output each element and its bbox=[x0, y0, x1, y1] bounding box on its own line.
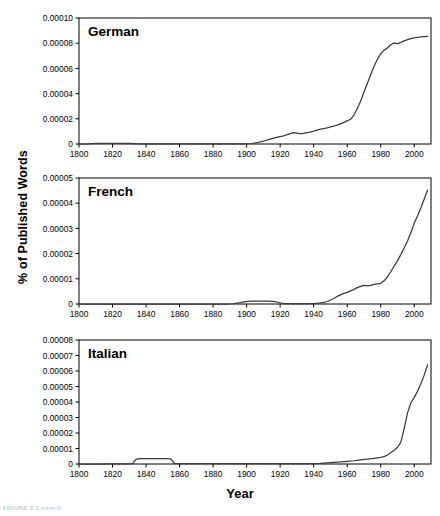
y-tick-label: 0.00005 bbox=[43, 173, 74, 183]
series-line-italian bbox=[79, 365, 428, 464]
x-tick-label: 1880 bbox=[204, 149, 223, 159]
x-tick-label: 1880 bbox=[204, 309, 223, 319]
x-tick-label: 1800 bbox=[70, 469, 89, 479]
panel-title-italian: Italian bbox=[88, 346, 127, 361]
x-tick-label: 1960 bbox=[338, 149, 357, 159]
x-tick-label: 1820 bbox=[103, 469, 122, 479]
x-tick-label: 1980 bbox=[371, 149, 390, 159]
y-tick-label: 0.00001 bbox=[43, 274, 74, 284]
panel-title-french: French bbox=[88, 184, 133, 199]
x-tick-label: 1800 bbox=[70, 309, 89, 319]
y-tick-label: 0.00003 bbox=[43, 413, 74, 423]
x-tick-label: 1880 bbox=[204, 469, 223, 479]
y-tick-label: 0.00001 bbox=[43, 444, 74, 454]
x-tick-label: 2000 bbox=[405, 469, 424, 479]
x-tick-label: 1900 bbox=[237, 309, 256, 319]
series-line-french bbox=[79, 190, 428, 304]
y-tick-label: 0 bbox=[68, 299, 73, 309]
x-tick-label: 1860 bbox=[170, 149, 189, 159]
x-tick-label: 1960 bbox=[338, 309, 357, 319]
x-tick-label: 1940 bbox=[304, 309, 323, 319]
x-tick-label: 2000 bbox=[405, 149, 424, 159]
chart-panel-italian: 00.000010.000020.000030.000040.000050.00… bbox=[0, 332, 440, 484]
y-tick-label: 0.00004 bbox=[43, 198, 74, 208]
chart-german: 00.000020.000040.000060.000080.000101800… bbox=[0, 4, 440, 164]
x-tick-label: 1800 bbox=[70, 149, 89, 159]
y-tick-label: 0 bbox=[68, 139, 73, 149]
y-tick-label: 0 bbox=[68, 459, 73, 469]
y-tick-label: 0.00002 bbox=[43, 428, 74, 438]
y-tick-label: 0.00007 bbox=[43, 351, 74, 361]
x-tick-label: 1840 bbox=[137, 309, 156, 319]
x-tick-label: 1920 bbox=[271, 309, 290, 319]
y-tick-label: 0.00005 bbox=[43, 382, 74, 392]
x-tick-label: 2000 bbox=[405, 309, 424, 319]
y-tick-label: 0.00002 bbox=[43, 114, 74, 124]
y-tick-label: 0.00003 bbox=[43, 224, 74, 234]
x-tick-label: 1840 bbox=[137, 149, 156, 159]
x-tick-label: 1960 bbox=[338, 469, 357, 479]
x-tick-label: 1840 bbox=[137, 469, 156, 479]
panel-title-german: German bbox=[88, 24, 139, 39]
chart-french: 00.000010.000020.000030.000040.000051800… bbox=[0, 168, 440, 328]
x-tick-label: 1820 bbox=[103, 149, 122, 159]
x-tick-label: 1860 bbox=[170, 469, 189, 479]
y-tick-label: 0.00004 bbox=[43, 89, 74, 99]
chart-panel-german: 00.000020.000040.000060.000080.000101800… bbox=[0, 4, 440, 164]
y-tick-label: 0.00006 bbox=[43, 366, 74, 376]
y-tick-label: 0.00008 bbox=[43, 335, 74, 345]
chart-italian: 00.000010.000020.000030.000040.000050.00… bbox=[0, 332, 440, 484]
plot-frame bbox=[79, 340, 431, 464]
x-tick-label: 1940 bbox=[304, 149, 323, 159]
x-axis-title: Year bbox=[0, 486, 440, 501]
chart-panel-french: 00.000010.000020.000030.000040.000051800… bbox=[0, 168, 440, 328]
figure-container: % of Published Words 00.000020.000040.00… bbox=[0, 0, 440, 516]
y-tick-label: 0.00008 bbox=[43, 38, 74, 48]
y-tick-label: 0.00006 bbox=[43, 64, 74, 74]
x-tick-label: 1900 bbox=[237, 469, 256, 479]
x-tick-label: 1980 bbox=[371, 309, 390, 319]
y-tick-label: 0.00010 bbox=[43, 13, 74, 23]
x-tick-label: 1940 bbox=[304, 469, 323, 479]
x-tick-label: 1860 bbox=[170, 309, 189, 319]
x-tick-label: 1900 bbox=[237, 149, 256, 159]
x-tick-label: 1920 bbox=[271, 469, 290, 479]
series-line-german bbox=[79, 36, 428, 144]
y-tick-label: 0.00004 bbox=[43, 397, 74, 407]
x-tick-label: 1920 bbox=[271, 149, 290, 159]
figure-caption: FIGURE 2.1 cont'd bbox=[3, 504, 61, 511]
x-tick-label: 1820 bbox=[103, 309, 122, 319]
y-tick-label: 0.00002 bbox=[43, 249, 74, 259]
x-tick-label: 1980 bbox=[371, 469, 390, 479]
